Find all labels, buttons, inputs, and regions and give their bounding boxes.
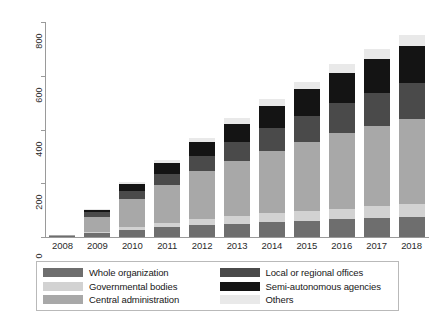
legend-grid: Whole organizationLocal or regional offi… [43,266,392,306]
legend-label: Whole organization [89,267,169,278]
x-axis-line [45,237,429,238]
bar-segment[interactable] [364,93,390,126]
bar-segment[interactable] [329,73,355,104]
bar-segment[interactable] [294,142,320,211]
bar-segment[interactable] [399,35,425,46]
chart-figure: 0200400600800 20082009201020112012201320… [0,0,435,324]
stacked-bar[interactable] [189,138,215,237]
bar-segment[interactable] [224,142,250,161]
bar-segment[interactable] [259,151,285,213]
bar-series-container [45,22,429,237]
bar-segment[interactable] [364,206,390,218]
bar-segment[interactable] [329,219,355,237]
bar-segment[interactable] [189,156,215,171]
bar-segment[interactable] [294,116,320,142]
bar-segment[interactable] [189,225,215,237]
stacked-bar[interactable] [119,182,145,237]
y-axis-tick-label: 600 [34,75,44,115]
legend-swatch [43,268,83,277]
legend-label: Governmental bodies [89,281,177,292]
bar-segment[interactable] [49,236,75,237]
bar-segment[interactable] [399,83,425,118]
bar-segment[interactable] [154,185,180,223]
bar-segment[interactable] [294,89,320,116]
bar-segment[interactable] [329,103,355,133]
y-axis-tick-label: 800 [34,21,44,61]
bar-segment[interactable] [294,221,320,237]
stacked-bar[interactable] [154,160,180,237]
bar-segment[interactable] [329,209,355,220]
bar-segment[interactable] [399,119,425,204]
bar-segment[interactable] [224,124,250,142]
legend-item[interactable]: Governmental bodies [43,280,216,294]
bar-segment[interactable] [154,227,180,237]
bar-segment[interactable] [119,230,145,237]
bar-segment[interactable] [259,213,285,222]
legend-item[interactable]: Central administration [43,293,216,307]
stacked-bar[interactable] [399,35,425,237]
bar-segment[interactable] [154,163,180,174]
bar-segment[interactable] [259,106,285,129]
legend-label: Central administration [89,294,179,305]
bar-segment[interactable] [189,171,215,218]
bar-segment[interactable] [259,128,285,151]
bar-segment[interactable] [364,218,390,237]
legend-item[interactable]: Others [220,293,393,307]
chart-legend: Whole organizationLocal or regional offi… [36,261,399,311]
legend-label: Semi-autonomous agencies [266,281,381,292]
y-axis-tick-label: 400 [34,129,44,169]
legend-swatch [220,295,260,304]
y-axis-tick-label: 200 [34,182,44,222]
bar-segment[interactable] [294,211,320,221]
bar-segment[interactable] [364,126,390,207]
legend-swatch [220,268,260,277]
bar-segment[interactable] [189,142,215,157]
bar-segment[interactable] [154,174,180,185]
stacked-bar[interactable] [259,99,285,237]
legend-label: Local or regional offices [266,267,364,278]
legend-swatch [43,295,83,304]
legend-swatch [220,282,260,291]
legend-item[interactable]: Whole organization [43,266,216,280]
bar-segment[interactable] [119,184,145,191]
bar-segment[interactable] [399,46,425,84]
stacked-bar[interactable] [84,209,110,237]
bar-segment[interactable] [329,133,355,209]
chart-plot-area: 0200400600800 20082009201020112012201320… [0,0,435,252]
bar-segment[interactable] [259,222,285,237]
legend-label: Others [266,294,294,305]
x-axis-tick-label: 2018 [392,240,432,251]
bar-segment[interactable] [119,199,145,227]
bar-segment[interactable] [294,82,320,90]
bar-segment[interactable] [224,161,250,216]
stacked-bar[interactable] [294,82,320,237]
bar-segment[interactable] [399,204,425,217]
stacked-bar[interactable] [364,49,390,237]
stacked-bar[interactable] [224,118,250,237]
bar-segment[interactable] [84,217,110,232]
legend-item[interactable]: Local or regional offices [220,266,393,280]
bar-segment[interactable] [399,217,425,237]
stacked-bar[interactable] [49,235,75,237]
legend-item[interactable]: Semi-autonomous agencies [220,280,393,294]
legend-swatch [43,282,83,291]
bar-segment[interactable] [84,233,110,237]
bar-segment[interactable] [329,64,355,73]
bar-segment[interactable] [224,216,250,224]
bar-segment[interactable] [224,224,250,237]
bar-segment[interactable] [364,49,390,59]
bar-segment[interactable] [119,191,145,199]
stacked-bar[interactable] [329,64,355,237]
bar-segment[interactable] [364,59,390,93]
